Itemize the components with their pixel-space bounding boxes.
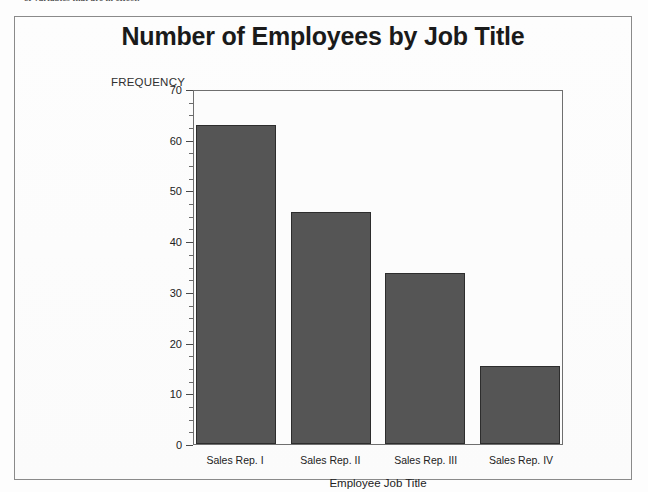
y-tick-major xyxy=(186,141,193,142)
y-tick-minor xyxy=(189,204,193,205)
y-tick-label: 10 xyxy=(170,388,182,400)
bars-layer xyxy=(194,91,562,444)
y-tick-major xyxy=(186,242,193,243)
y-tick-minor xyxy=(189,128,193,129)
x-axis-label-3: Sales Rep. III xyxy=(386,454,466,466)
y-tick-minor xyxy=(189,432,193,433)
bar-1 xyxy=(196,125,276,445)
y-tick-minor xyxy=(189,407,193,408)
bar-4 xyxy=(480,366,560,444)
y-tick-minor xyxy=(189,280,193,281)
y-tick-minor xyxy=(189,229,193,230)
y-tick-minor xyxy=(189,420,193,421)
y-tick-minor xyxy=(189,268,193,269)
y-tick-label: 0 xyxy=(176,439,182,451)
chart-figure-frame: Number of Employees by Job Title FREQUEN… xyxy=(14,16,632,480)
y-tick-major xyxy=(186,90,193,91)
y-tick-minor xyxy=(189,217,193,218)
x-axis-label-4: Sales Rep. IV xyxy=(481,454,561,466)
bar-3 xyxy=(385,273,465,444)
bar-2 xyxy=(291,212,371,444)
y-tick-minor xyxy=(189,115,193,116)
y-tick-minor xyxy=(189,318,193,319)
y-tick-major xyxy=(186,293,193,294)
y-tick-label: 60 xyxy=(170,135,182,147)
y-tick-label: 50 xyxy=(170,185,182,197)
y-tick-minor xyxy=(189,166,193,167)
y-tick-major xyxy=(186,191,193,192)
y-tick-minor xyxy=(189,103,193,104)
y-tick-label: 40 xyxy=(170,236,182,248)
y-tick-minor xyxy=(189,356,193,357)
y-tick-minor xyxy=(189,306,193,307)
y-tick-minor xyxy=(189,382,193,383)
plot-area xyxy=(193,90,563,445)
x-axis-title: Employee Job Title xyxy=(193,477,563,489)
y-tick-minor xyxy=(189,179,193,180)
y-tick-label: 30 xyxy=(170,287,182,299)
y-tick-label: 70 xyxy=(170,84,182,96)
y-tick-label: 20 xyxy=(170,338,182,350)
x-axis-label-2: Sales Rep. II xyxy=(290,454,370,466)
x-axis-label-1: Sales Rep. I xyxy=(195,454,275,466)
y-tick-minor xyxy=(189,255,193,256)
chart-title: Number of Employees by Job Title xyxy=(15,22,631,51)
y-tick-major xyxy=(186,344,193,345)
y-tick-minor xyxy=(189,369,193,370)
document-text-fragment: of variables that are in effect. xyxy=(24,0,254,3)
y-tick-major xyxy=(186,394,193,395)
y-tick-minor xyxy=(189,153,193,154)
y-tick-major xyxy=(186,445,193,446)
x-axis-category-labels: Sales Rep. ISales Rep. IISales Rep. IIIS… xyxy=(193,454,563,466)
y-tick-minor xyxy=(189,331,193,332)
